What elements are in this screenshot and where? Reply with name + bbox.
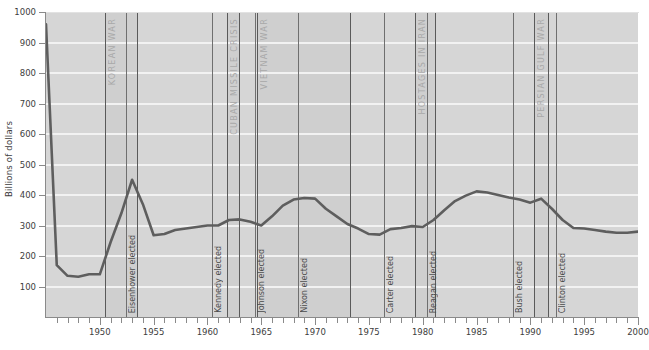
- y-axis-tick-label: 100: [4, 282, 36, 292]
- x-axis-minor-tick: [498, 317, 499, 323]
- plot-top-frame: [45, 12, 639, 13]
- x-axis-minor-tick: [326, 317, 327, 323]
- x-axis-minor-tick: [433, 317, 434, 323]
- president-election-label: Reagan elected: [429, 251, 438, 313]
- x-axis-minor-tick: [541, 317, 542, 323]
- x-axis-tick-label: 1985: [466, 327, 488, 337]
- x-axis-major-tick: [154, 317, 155, 325]
- x-axis-tick-label: 1975: [358, 327, 380, 337]
- era-label: CUBAN MISSILE CRISIS: [230, 18, 239, 135]
- x-axis-minor-tick: [627, 317, 628, 323]
- x-axis-major-tick: [584, 317, 585, 325]
- x-axis-minor-tick: [251, 317, 252, 323]
- president-election-label: Eisenhower elected: [128, 235, 137, 313]
- x-axis-major-tick: [638, 317, 639, 325]
- x-axis-minor-tick: [240, 317, 241, 323]
- x-axis-minor-tick: [143, 317, 144, 323]
- x-axis-tick-label: 1955: [143, 327, 165, 337]
- x-axis-major-tick: [261, 317, 262, 325]
- x-axis-minor-tick: [186, 317, 187, 323]
- x-axis-major-tick: [100, 317, 101, 325]
- y-axis-tick-label: 500: [4, 160, 36, 170]
- president-election-label: Johnson elected: [257, 249, 266, 313]
- y-axis-tick: [39, 195, 46, 196]
- x-axis-minor-tick: [552, 317, 553, 323]
- x-axis-minor-tick: [197, 317, 198, 323]
- x-axis-minor-tick: [573, 317, 574, 323]
- x-axis-minor-tick: [347, 317, 348, 323]
- y-axis-tick: [39, 104, 46, 105]
- x-axis-minor-tick: [57, 317, 58, 323]
- x-axis-major-tick: [315, 317, 316, 325]
- x-axis-major-tick: [477, 317, 478, 325]
- x-axis-tick-label: 1980: [412, 327, 434, 337]
- y-axis-tick-label: 400: [4, 190, 36, 200]
- x-axis-minor-tick: [380, 317, 381, 323]
- x-axis-minor-tick: [337, 317, 338, 323]
- x-axis-tick-label: 1995: [573, 327, 595, 337]
- x-axis-minor-tick: [455, 317, 456, 323]
- president-election-label: Carter elected: [386, 256, 395, 313]
- x-axis-minor-tick: [218, 317, 219, 323]
- x-axis-major-tick: [423, 317, 424, 325]
- y-axis-tick-label: 700: [4, 99, 36, 109]
- x-axis-minor-tick: [304, 317, 305, 323]
- era-label: VIETNAM WAR: [260, 18, 269, 89]
- x-axis-minor-tick: [358, 317, 359, 323]
- y-axis-tick: [39, 73, 46, 74]
- x-axis-minor-tick: [78, 317, 79, 323]
- x-axis-minor-tick: [294, 317, 295, 323]
- x-axis-minor-tick: [401, 317, 402, 323]
- x-axis-tick-label: 1970: [304, 327, 326, 337]
- y-axis-tick: [39, 165, 46, 166]
- x-axis-minor-tick: [412, 317, 413, 323]
- x-axis-tick-label: 1950: [89, 327, 111, 337]
- y-axis-tick: [39, 134, 46, 135]
- president-election-label: Bush elected: [515, 261, 524, 313]
- x-axis-minor-tick: [283, 317, 284, 323]
- y-axis-tick-label: 600: [4, 129, 36, 139]
- x-axis-minor-tick: [390, 317, 391, 323]
- y-axis-tick-label: 800: [4, 68, 36, 78]
- x-axis-major-tick: [207, 317, 208, 325]
- era-label: HOSTAGES IN IRAN: [418, 18, 427, 115]
- x-axis-minor-tick: [520, 317, 521, 323]
- x-axis-minor-tick: [466, 317, 467, 323]
- x-axis-minor-tick: [509, 317, 510, 323]
- x-axis-minor-tick: [111, 317, 112, 323]
- x-axis-tick-label: 1965: [250, 327, 272, 337]
- x-axis-minor-tick: [272, 317, 273, 323]
- x-axis-minor-tick: [68, 317, 69, 323]
- y-axis-tick-label: 200: [4, 251, 36, 261]
- x-axis-tick-label: 1990: [520, 327, 542, 337]
- x-axis-major-tick: [369, 317, 370, 325]
- x-axis-minor-tick: [164, 317, 165, 323]
- y-axis-tick-label: 300: [4, 221, 36, 231]
- president-election-label: Kennedy elected: [214, 246, 223, 313]
- y-axis-tick: [39, 287, 46, 288]
- era-label: PERSIAN GULF WAR: [537, 18, 546, 118]
- x-axis-minor-tick: [444, 317, 445, 323]
- x-axis-minor-tick: [595, 317, 596, 323]
- x-axis-minor-tick: [132, 317, 133, 323]
- era-label: KOREAN WAR: [108, 18, 117, 85]
- x-axis-minor-tick: [121, 317, 122, 323]
- y-axis-tick-labels: 1002003004005006007008009001000: [0, 0, 36, 350]
- x-axis-major-tick: [530, 317, 531, 325]
- x-axis-tick-label: 1960: [197, 327, 219, 337]
- y-axis-tick-label: 900: [4, 38, 36, 48]
- x-axis-minor-tick: [175, 317, 176, 323]
- x-axis-minor-tick: [89, 317, 90, 323]
- x-axis-minor-tick: [616, 317, 617, 323]
- y-axis-tick: [39, 12, 46, 13]
- y-axis-tick: [39, 226, 46, 227]
- x-axis-line: [45, 317, 639, 318]
- president-election-label: Nixon elected: [300, 258, 309, 313]
- x-axis-minor-tick: [606, 317, 607, 323]
- x-axis-minor-tick: [229, 317, 230, 323]
- x-axis-minor-tick: [487, 317, 488, 323]
- y-axis-tick-label: 1000: [4, 7, 36, 17]
- x-axis-tick-label: 2000: [627, 327, 649, 337]
- y-axis-tick: [39, 256, 46, 257]
